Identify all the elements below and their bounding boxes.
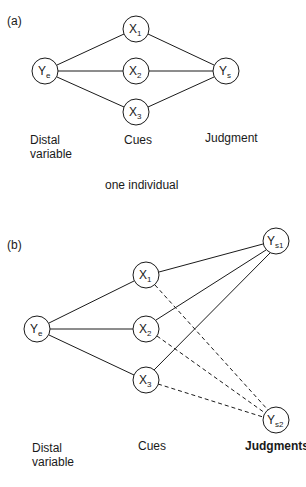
- node-ys: Ys: [213, 58, 239, 84]
- edge-ye-x3: [49, 335, 134, 375]
- distal-label-line1: Distal: [32, 441, 62, 455]
- edge-x1-ys2: [155, 285, 268, 410]
- edge-x1-ys1: [159, 244, 263, 272]
- judgment-label: Judgment: [205, 131, 258, 145]
- distal-label-line2: variable: [32, 455, 74, 469]
- node-ys2: Ys2: [263, 407, 289, 433]
- panel-a: (a) Ye X1 X2 X3 Ys: [7, 14, 258, 192]
- panel-a-caption: one individual: [105, 178, 178, 192]
- edge-ye-x1: [57, 34, 124, 65]
- edge-x2-ys2: [157, 336, 265, 413]
- node-x3: X3: [133, 367, 159, 393]
- edge-x3-ys: [148, 77, 214, 107]
- cues-label: Cues: [138, 439, 166, 453]
- edge-ye-x3: [57, 77, 124, 107]
- panel-b: (b) Ye X1 X2: [7, 228, 306, 469]
- edge-ye-x1: [49, 281, 134, 323]
- node-x1: X1: [123, 16, 149, 42]
- cues-label: Cues: [124, 133, 152, 147]
- lens-model-diagram: (a) Ye X1 X2 X3 Ys: [0, 0, 306, 487]
- distal-label-line2: variable: [30, 147, 72, 161]
- panel-b-dashed-edges: [155, 285, 268, 417]
- panel-b-label: (b): [7, 238, 22, 252]
- judgments-label: Judgments: [245, 439, 306, 453]
- panel-a-label: (a): [7, 14, 22, 28]
- node-ye: Ye: [24, 316, 50, 342]
- distal-label-line1: Distal: [30, 133, 60, 147]
- edge-x3-ys2: [158, 384, 263, 417]
- edge-x1-ys: [148, 34, 214, 65]
- node-x1: X1: [133, 262, 159, 288]
- node-ye: Ye: [32, 58, 58, 84]
- panel-b-solid-edges: [49, 244, 270, 375]
- edge-x2-ys1: [156, 250, 266, 320]
- node-x2: X2: [123, 58, 149, 84]
- edge-x3-ys1: [154, 253, 270, 370]
- node-ys1: Ys1: [263, 228, 289, 254]
- node-x2: X2: [133, 316, 159, 342]
- node-x3: X3: [123, 99, 149, 125]
